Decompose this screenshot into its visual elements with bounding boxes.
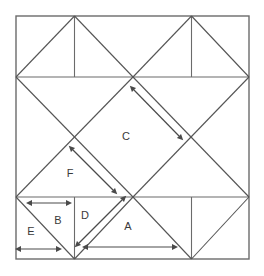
- region-label-d: D: [81, 209, 89, 221]
- region-label-e: E: [27, 225, 34, 237]
- region-label-f: F: [67, 167, 74, 179]
- diagram-background: [0, 0, 264, 276]
- diagram-canvas: ABCDEF: [0, 0, 264, 276]
- dissection-diagram: ABCDEF: [0, 0, 264, 276]
- region-label-b: B: [54, 214, 61, 226]
- region-label-c: C: [122, 130, 130, 142]
- region-label-a: A: [124, 220, 132, 232]
